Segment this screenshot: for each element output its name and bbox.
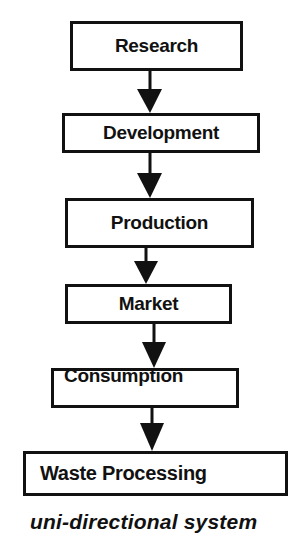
node-label: Waste Processing xyxy=(40,462,207,485)
node-market: Market xyxy=(65,284,232,324)
node-label: Consumption xyxy=(64,365,183,387)
arrow-production-to-market xyxy=(134,247,158,284)
arrow-development-to-production xyxy=(137,152,162,198)
node-development: Development xyxy=(62,113,260,153)
arrow-market-to-consumption xyxy=(142,323,166,368)
node-label: Research xyxy=(115,35,198,57)
node-research: Research xyxy=(70,21,243,71)
diagram-caption: uni-directional system xyxy=(30,510,295,534)
node-consumption: Consumption xyxy=(51,368,239,408)
arrow-research-to-development xyxy=(137,70,162,113)
node-label: Production xyxy=(111,212,208,234)
node-label: Development xyxy=(103,122,219,144)
node-label: Market xyxy=(119,293,178,315)
node-production: Production xyxy=(65,198,254,248)
flowchart-canvas: Research Development Production Market C… xyxy=(0,0,297,541)
arrow-consumption-to-waste xyxy=(140,407,164,451)
node-waste-processing: Waste Processing xyxy=(23,451,288,496)
